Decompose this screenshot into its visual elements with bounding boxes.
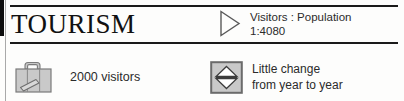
divider-middle bbox=[10, 42, 398, 44]
ratio-label: Visitors : Population bbox=[250, 10, 351, 24]
ratio-readout: Visitors : Population 1:4080 bbox=[250, 10, 351, 38]
up-down-arrows-icon bbox=[210, 61, 243, 94]
trend-line-1: Little change bbox=[252, 62, 343, 78]
ratio-value: 1:4080 bbox=[250, 24, 351, 38]
trend-description: Little change from year to year bbox=[252, 62, 343, 93]
scan-edge-mark bbox=[0, 0, 4, 36]
tourism-info-panel: TOURISM Visitors : Population 1:4080 200… bbox=[0, 0, 404, 101]
trend-line-2: from year to year bbox=[252, 78, 343, 94]
visitors-count-label: 2000 visitors bbox=[70, 69, 140, 85]
suitcase-icon bbox=[14, 60, 53, 94]
left-margin-rule bbox=[5, 0, 6, 101]
page-title: TOURISM bbox=[11, 7, 136, 41]
triangle-right-icon bbox=[219, 10, 241, 37]
